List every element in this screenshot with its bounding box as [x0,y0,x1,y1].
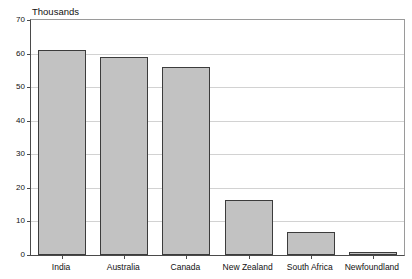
y-axis-tick-label: 40 [16,117,25,125]
x-axis-label: South Africa [287,262,333,272]
y-axis-tick-label: 20 [16,184,25,192]
gridline [31,188,404,189]
x-axis-tick-mark [62,255,63,259]
bar [225,200,273,255]
x-axis-label: Canada [171,262,201,272]
x-axis-tick-mark [311,255,312,259]
x-axis-label: Newfoundland [345,262,399,272]
y-axis-tick-label: 30 [16,150,25,158]
y-axis-tick-mark [27,188,31,189]
gridline [31,54,404,55]
y-axis-tick-mark [27,221,31,222]
x-axis-tick-mark [124,255,125,259]
y-axis-tick-label: 60 [16,50,25,58]
gridline [31,154,404,155]
y-axis-tick-label: 0 [21,251,25,259]
x-axis-label: New Zealand [223,262,273,272]
y-axis-tick-label: 10 [16,217,25,225]
bar-chart: Thousands 010203040506070 IndiaAustralia… [0,0,412,279]
x-axis-tick-mark [186,255,187,259]
x-axis-label: Australia [107,262,140,272]
y-axis-tick-mark [27,54,31,55]
y-axis-tick-label: 50 [16,83,25,91]
gridline [31,87,404,88]
bar [287,232,335,256]
y-axis-tick-mark [27,87,31,88]
y-axis-unit-label: Thousands [32,6,79,17]
y-axis-tick-label: 70 [16,16,25,24]
bar [100,57,148,255]
x-axis-tick-mark [249,255,250,259]
x-axis-tick-mark [373,255,374,259]
gridline [31,121,404,122]
gridline [31,221,404,222]
y-axis-tick-mark [27,154,31,155]
x-axis-label: India [52,262,70,272]
y-axis-tick-mark [27,255,31,256]
bar [38,50,86,255]
bar [162,67,210,255]
plot-area: 010203040506070 [30,19,405,256]
y-axis-tick-mark [27,121,31,122]
y-axis-tick-mark [27,20,31,21]
